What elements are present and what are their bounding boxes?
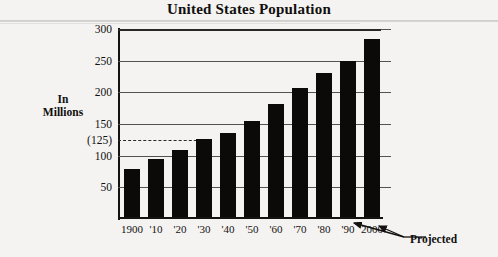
y-tick-label-50: 50 bbox=[66, 181, 112, 193]
gridline-tick-150 bbox=[381, 124, 391, 125]
bar-90 bbox=[340, 61, 356, 217]
y-axis-tick-labels: 50100(125)150200250300 bbox=[66, 29, 112, 219]
gridline-300 bbox=[118, 29, 381, 31]
y-tick-label-125: (125) bbox=[66, 134, 112, 146]
bar-2000 bbox=[364, 39, 380, 217]
gridline-tick-100 bbox=[381, 156, 391, 157]
bar-chart-plot-area: 50100(125)150200250300 1900'10'20'30'40'… bbox=[118, 29, 381, 219]
gridline-tick-50 bbox=[381, 187, 391, 188]
x-tick-label-80: '80 bbox=[318, 223, 331, 235]
gridline-tick-300 bbox=[381, 29, 391, 30]
y-tick-label-100: 100 bbox=[66, 150, 112, 162]
page-scan-rule bbox=[0, 20, 498, 22]
x-axis-line bbox=[118, 217, 383, 219]
x-tick-label-40: '40 bbox=[222, 223, 235, 235]
bar-40 bbox=[220, 133, 236, 217]
x-tick-label-30: '30 bbox=[198, 223, 211, 235]
projected-annotation-label: Projected bbox=[410, 233, 457, 245]
y-tick-label-200: 200 bbox=[66, 86, 112, 98]
page-scan-rule-secondary bbox=[0, 23, 360, 24]
bar-70 bbox=[292, 88, 308, 217]
x-tick-label-70: '70 bbox=[294, 223, 307, 235]
bar-20 bbox=[172, 150, 188, 217]
bar-50 bbox=[244, 121, 260, 217]
x-tick-label-1900: 1900 bbox=[121, 223, 143, 235]
x-tick-label-50: '50 bbox=[246, 223, 259, 235]
bar-60 bbox=[268, 104, 284, 217]
bar-80 bbox=[316, 73, 332, 217]
y-tick-label-150: 150 bbox=[66, 118, 112, 130]
y-tick-label-250: 250 bbox=[66, 55, 112, 67]
x-tick-label-10: '10 bbox=[150, 223, 163, 235]
bar-1900 bbox=[124, 169, 140, 217]
x-tick-label-20: '20 bbox=[174, 223, 187, 235]
y-tick-label-300: 300 bbox=[66, 23, 112, 35]
page-title: United States Population bbox=[0, 1, 498, 18]
gridline-tick-200 bbox=[381, 92, 391, 93]
x-tick-label-60: '60 bbox=[270, 223, 283, 235]
gridline-tick-250 bbox=[381, 61, 391, 62]
bar-30 bbox=[196, 139, 212, 217]
bar-10 bbox=[148, 159, 164, 217]
